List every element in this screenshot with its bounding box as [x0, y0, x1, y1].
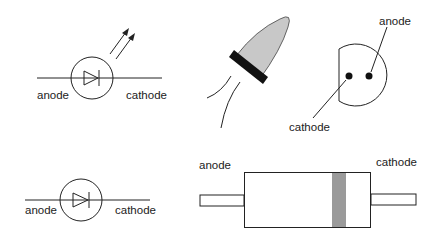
diode-symbol-cathode-label: cathode — [115, 204, 156, 216]
led-lens — [236, 17, 289, 80]
diode-schematic-symbol: anode cathode — [25, 179, 156, 221]
diode-diagram: anode cathode anode cathode anode cathod… — [0, 0, 440, 241]
cathode-pin — [346, 73, 353, 80]
axial-anode-label: anode — [199, 159, 231, 171]
cathode-pointer — [313, 80, 346, 118]
axial-cathode-label: cathode — [376, 156, 417, 168]
diode-symbol-anode-label: anode — [25, 204, 57, 216]
bottom-view-cathode-label: cathode — [289, 121, 330, 133]
light-arrows-icon — [110, 28, 135, 59]
led-schematic-symbol: anode cathode — [37, 28, 167, 101]
axial-diode: anode cathode — [199, 156, 417, 228]
bottom-view-anode-label: anode — [379, 15, 411, 27]
axial-lead-cathode — [371, 194, 416, 205]
led-bottom-view: anode cathode — [289, 15, 411, 133]
cathode-band — [332, 173, 346, 227]
axial-body — [245, 173, 371, 228]
led-lead-short — [207, 76, 231, 98]
axial-lead-anode — [200, 195, 244, 206]
led-symbol-anode-label: anode — [37, 89, 69, 101]
led-lead-long — [221, 82, 240, 128]
led-symbol-cathode-label: cathode — [126, 89, 167, 101]
anode-pin — [366, 73, 373, 80]
led-physical-body — [207, 17, 289, 128]
